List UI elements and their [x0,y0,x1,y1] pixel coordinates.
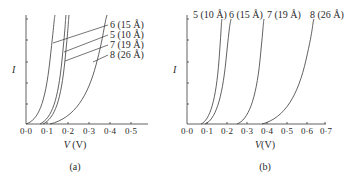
panel-a-xlabel-var: V [64,139,72,150]
panel-b-xtick-2: 0·2 [221,126,233,136]
panel-b-label-5: 5 (10 Å) [193,9,227,21]
panel-a-leader-6 [53,25,108,43]
panel-b-ylabel: I [172,64,177,75]
figure: 0·0 0·1 0·2 0·3 0·4 0·5 6 (15 Å) 5 (10 Å… [0,0,355,187]
panel-b-axes [187,15,326,124]
panel-b-xtick-4: 0·4 [261,126,273,136]
panel-a-curve-6 [26,15,55,124]
panel-b-xtick-6: 0·6 [301,126,313,136]
panel-b-xlabel-unit: (V) [261,139,275,151]
panel-b-xtick-1: 0·1 [201,126,213,136]
panel-b-xtick-5: 0·5 [281,126,293,136]
panel-a-curve-8 [50,15,107,124]
panel-b-curve-8 [262,19,314,124]
panel-a-leader-7 [65,45,108,61]
panel-a-label-8: 8 (26 Å) [110,49,144,61]
panel-a-ylabel: I [11,64,16,75]
panel-b-curve-7 [237,19,264,124]
panel-a-xtick-5: 0·5 [125,126,137,136]
panel-a-leader-8 [93,55,108,62]
panel-a-caption: (a) [69,161,80,173]
panel-a: 0·0 0·1 0·2 0·3 0·4 0·5 6 (15 Å) 5 (10 Å… [11,15,148,173]
panel-b-caption: (b) [259,161,271,173]
panel-b-xtick-7: 0·7 [320,126,332,136]
panel-b-xlabel: V(V) [255,139,275,151]
panel-a-xtick-1: 0·1 [41,126,53,136]
panel-a-xtick-0: 0·0 [20,126,32,136]
panel-a-xlabel-unit: (V) [72,139,86,151]
panel-a-xtick-2: 0·2 [62,126,74,136]
panel-b-xtick-0: 0·0 [181,126,193,136]
panel-b: 0·0 0·1 0·2 0·3 0·4 0·5 0·6 0·7 5 (10 Å)… [172,9,344,173]
panel-b-label-6: 6 (15 Å) [229,9,263,21]
panel-b-label-7: 7 (19 Å) [267,9,301,21]
panel-a-xtick-3: 0·3 [83,126,95,136]
panel-a-xlabel: V (V) [64,139,87,151]
panel-b-curve-5 [201,19,222,124]
panel-b-label-8: 8 (26 Å) [310,9,344,21]
panel-b-xtick-3: 0·3 [241,126,253,136]
panel-a-xtick-4: 0·4 [104,126,116,136]
